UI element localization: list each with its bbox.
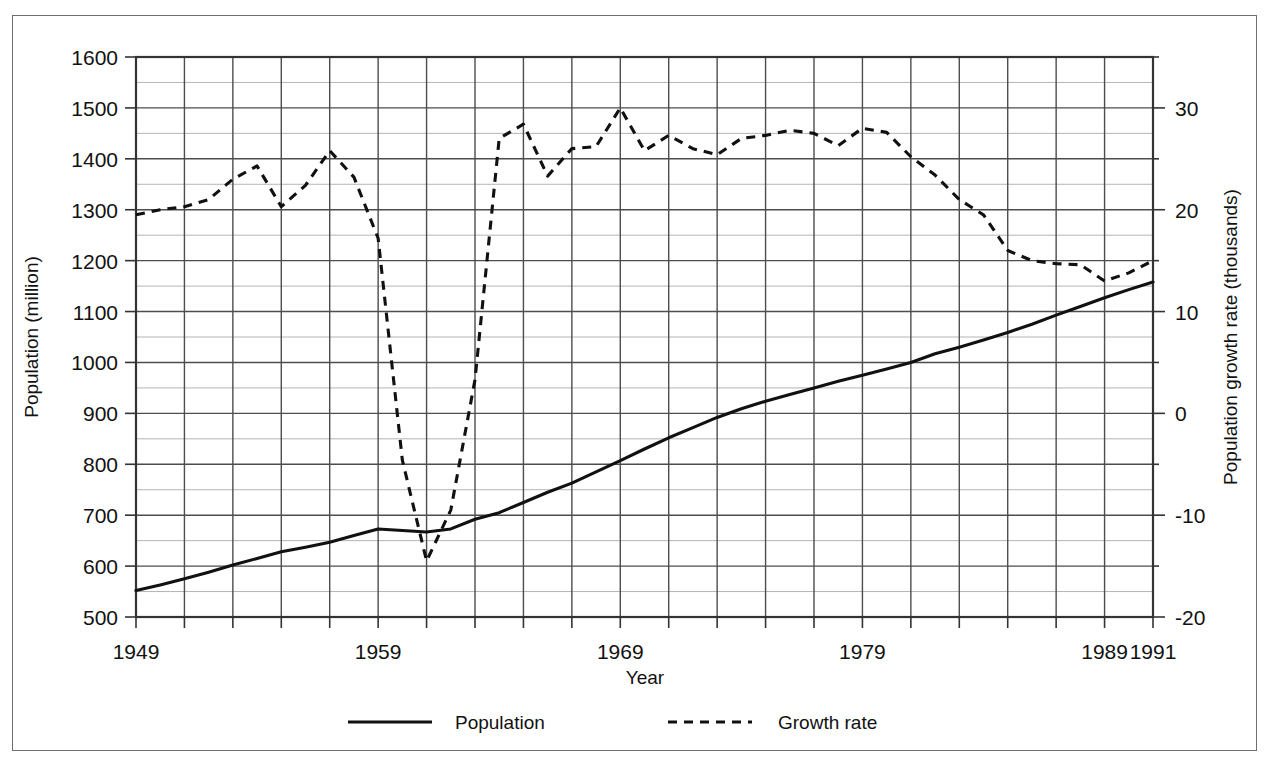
y2-tick-label: -10: [1175, 504, 1205, 527]
population-line: [136, 282, 1153, 591]
y2-axis-tick-labels: -20-100102030: [1175, 97, 1205, 629]
y-tick-label: 800: [83, 453, 118, 476]
y-tick-label: 1300: [71, 199, 118, 222]
legend-population-label: Population: [455, 712, 545, 733]
y-axis-ticks: [125, 57, 136, 617]
y-tick-label: 1500: [71, 97, 118, 120]
x-tick-label: 1989: [1081, 640, 1128, 663]
legend: Population Growth rate: [348, 712, 877, 733]
left-axis-title: Population (million): [21, 256, 42, 418]
y-tick-label: 1100: [73, 301, 118, 324]
y-tick-label: 1400: [71, 148, 118, 171]
x-tick-label: 1979: [839, 640, 886, 663]
y-tick-label: 1600: [71, 46, 118, 69]
x-axis-title: Year: [626, 667, 665, 688]
chart-page: 5006007008009001000110012001300140015001…: [0, 0, 1271, 772]
y2-tick-label: -20: [1175, 606, 1205, 629]
x-tick-label: 1991: [1130, 640, 1177, 663]
x-axis-tick-labels: 194919591969197919891991: [113, 640, 1177, 663]
y2-axis-ticks: [1153, 57, 1165, 617]
y2-tick-label: 0: [1175, 402, 1187, 425]
y-tick-label: 900: [83, 402, 118, 425]
y2-tick-label: 10: [1175, 301, 1198, 324]
x-tick-label: 1969: [597, 640, 644, 663]
y2-tick-label: 30: [1175, 97, 1198, 120]
x-tick-label: 1959: [355, 640, 402, 663]
right-axis-title: Population growth rate (thousands): [1220, 189, 1241, 485]
y2-tick-label: 20: [1175, 199, 1198, 222]
y-axis-tick-labels: 5006007008009001000110012001300140015001…: [71, 46, 118, 629]
x-axis-ticks: [136, 617, 1153, 628]
y-tick-label: 500: [83, 606, 118, 629]
y-tick-label: 1000: [71, 351, 118, 374]
x-tick-label: 1949: [113, 640, 160, 663]
y-tick-label: 700: [83, 504, 118, 527]
chart-canvas: 5006007008009001000110012001300140015001…: [0, 0, 1271, 772]
y-tick-label: 600: [83, 555, 118, 578]
y-tick-label: 1200: [71, 250, 118, 273]
legend-growth-label: Growth rate: [778, 712, 877, 733]
